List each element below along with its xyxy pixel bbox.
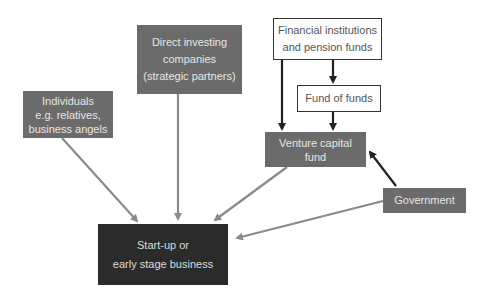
node-label: fund [305, 150, 326, 164]
node-label: (strategic partners) [143, 68, 235, 85]
node-label: Venture capital [279, 136, 352, 150]
node-financial-institutions: Financial institutions and pension funds [273, 18, 382, 60]
node-fund-of-funds: Fund of funds [297, 85, 381, 112]
arrow-vc-to-startup [215, 167, 287, 220]
arrow-government-to-startup [237, 201, 383, 238]
node-direct-investing: Direct investing companies (strategic pa… [137, 25, 242, 94]
connector-layer [0, 0, 487, 306]
node-label: and pension funds [283, 39, 373, 56]
node-label: early stage business [113, 255, 213, 274]
node-label: Direct investing [152, 34, 227, 51]
node-label: e.g. relatives, [35, 108, 100, 122]
node-government: Government [383, 188, 466, 213]
node-label: Fund of funds [305, 90, 372, 107]
arrow-individuals-to-startup [62, 138, 137, 221]
node-label: Individuals [42, 94, 94, 108]
node-individuals: Individuals e.g. relatives, business ang… [23, 91, 113, 138]
node-label: business angels [29, 122, 108, 136]
node-venture-capital-fund: Venture capital fund [265, 132, 366, 167]
node-label: Financial institutions [278, 22, 377, 39]
node-label: Government [394, 192, 455, 209]
node-startup: Start-up or early stage business [98, 224, 228, 285]
arrow-government-to-vc [370, 152, 396, 186]
node-label: companies [163, 51, 216, 68]
node-label: Start-up or [137, 236, 189, 255]
